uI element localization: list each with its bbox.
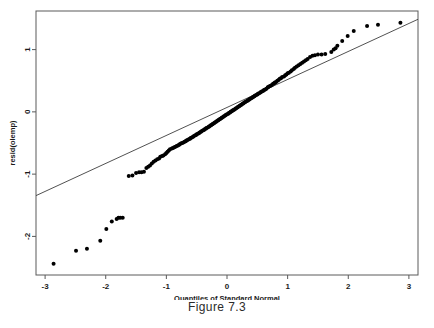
x-tick-label: -2 — [102, 282, 110, 291]
data-point — [323, 52, 327, 56]
x-tick-label: -3 — [42, 282, 50, 291]
data-point — [316, 53, 320, 57]
data-point — [110, 219, 114, 223]
data-point — [376, 23, 380, 27]
label-layer: -3-2-1012310-1-2Quantiles of Standard No… — [8, 47, 412, 300]
data-point — [352, 29, 356, 33]
qq-plot: -3-2-1012310-1-2Quantiles of Standard No… — [0, 0, 434, 300]
data-point — [52, 262, 56, 266]
data-layer — [36, 19, 418, 266]
data-point — [346, 34, 350, 38]
figure-caption: Figure 7.3 — [0, 300, 434, 314]
data-point — [365, 24, 369, 28]
x-tick-label: -1 — [163, 282, 171, 291]
figure-container: -3-2-1012310-1-2Quantiles of Standard No… — [0, 0, 434, 328]
plot-frame — [36, 11, 418, 275]
data-point — [74, 249, 78, 253]
data-point — [142, 170, 146, 174]
y-tick-label: 1 — [24, 47, 33, 52]
qq-reference-line — [36, 19, 418, 195]
data-point — [398, 21, 402, 25]
y-tick-label: -1 — [24, 170, 33, 178]
data-point — [340, 39, 344, 43]
axis-layer — [32, 11, 418, 279]
data-point — [127, 174, 131, 178]
x-tick-label: 0 — [225, 282, 230, 291]
x-tick-label: 2 — [346, 282, 351, 291]
y-axis-title: resid(olemp) — [8, 120, 17, 166]
y-tick-label: -2 — [24, 232, 33, 240]
data-point — [320, 53, 324, 57]
data-point — [104, 227, 108, 231]
data-point — [335, 44, 339, 48]
x-tick-label: 3 — [407, 282, 412, 291]
residual-quantiles — [52, 21, 403, 266]
data-point — [121, 216, 125, 220]
data-point — [85, 247, 89, 251]
x-tick-label: 1 — [285, 282, 290, 291]
y-tick-label: 0 — [24, 109, 33, 114]
data-point — [130, 173, 134, 177]
data-point — [98, 239, 102, 243]
